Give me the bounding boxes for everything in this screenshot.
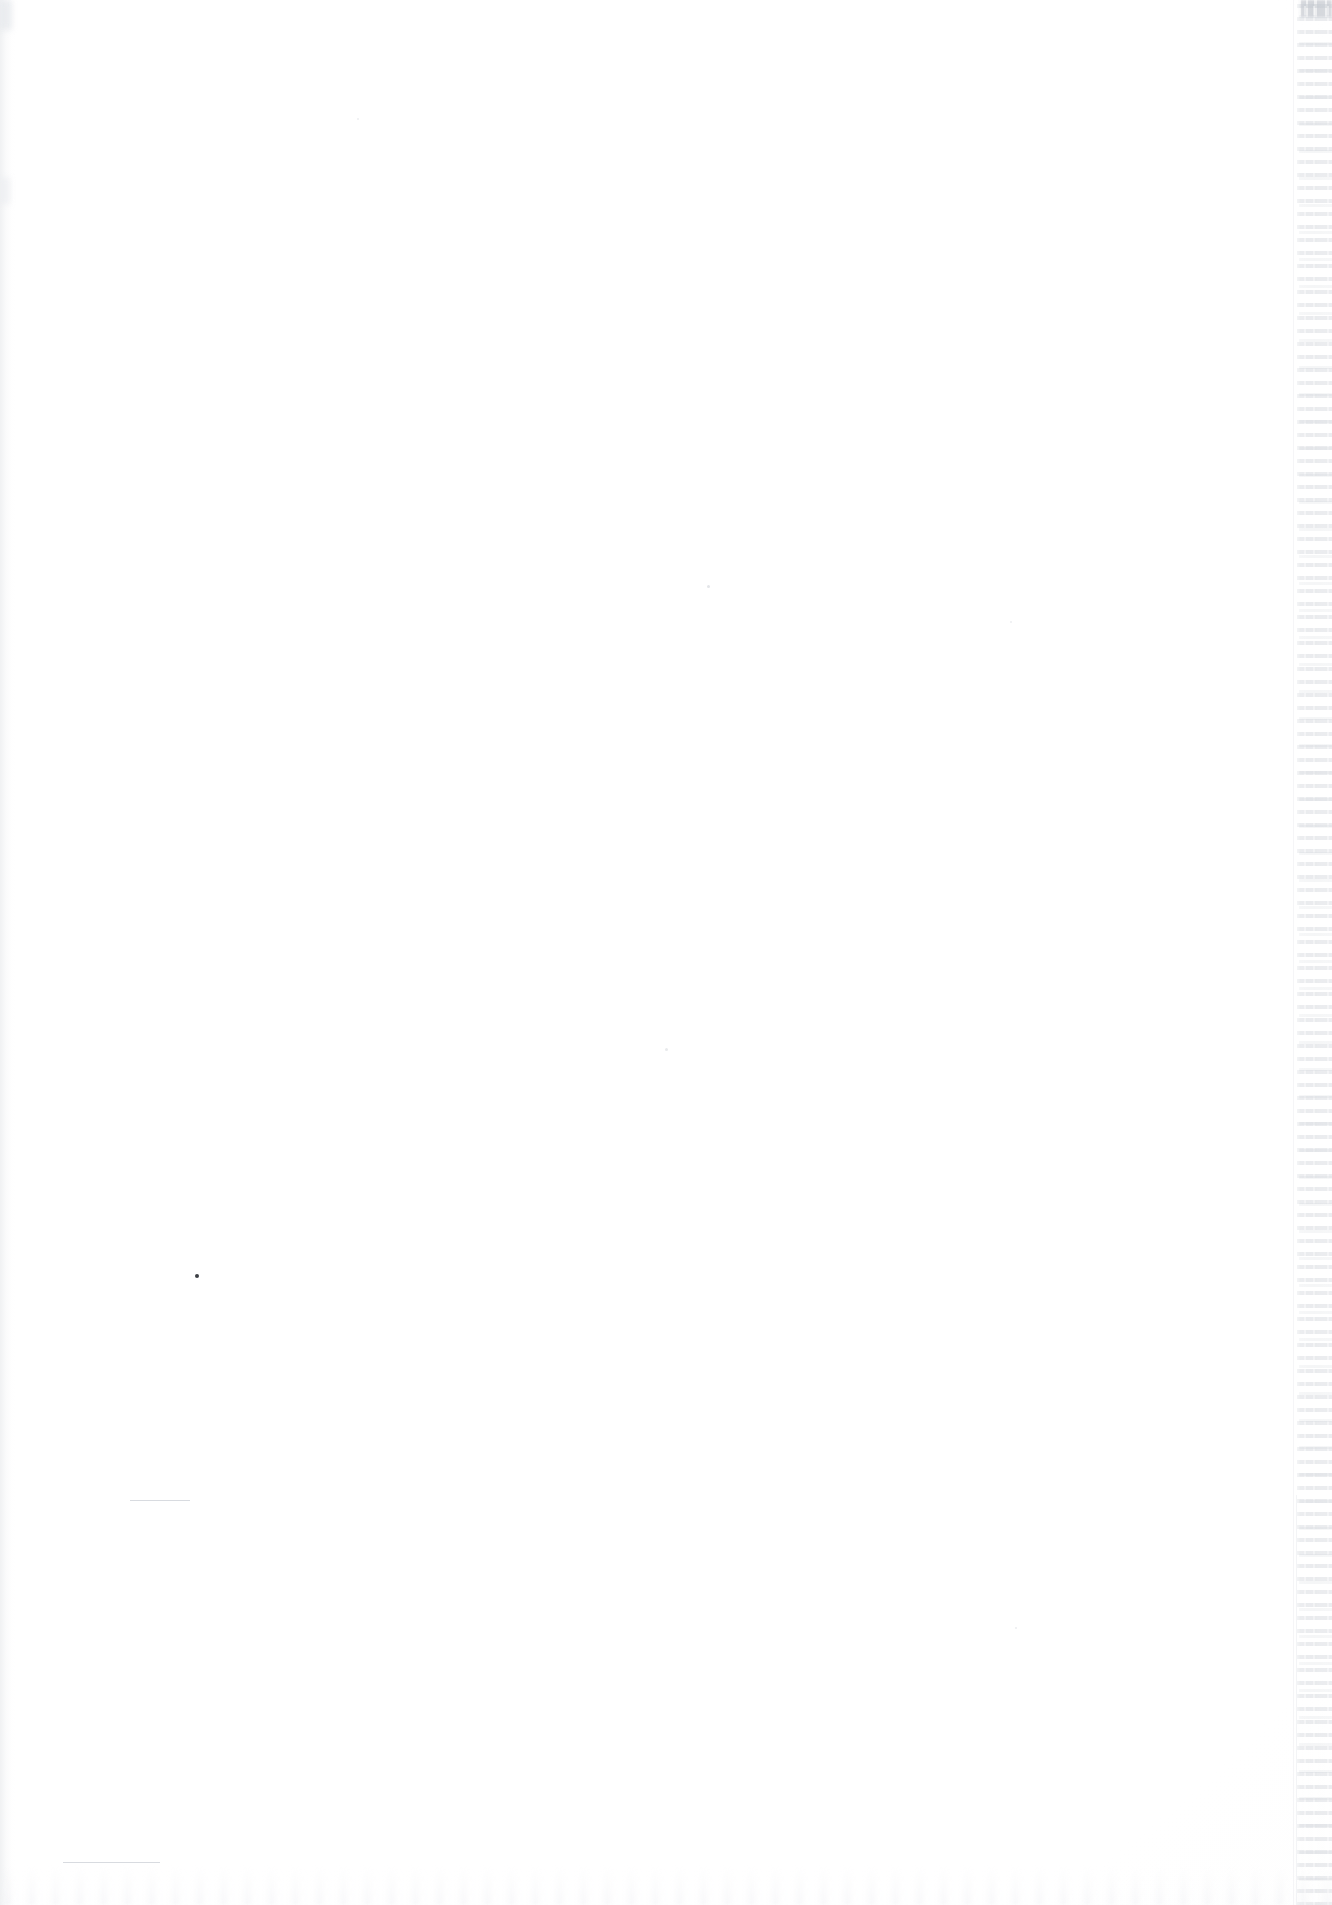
showthrough-ghost-text-rows [1297, 0, 1332, 1905]
showthrough-corner-block [1300, 0, 1332, 17]
page-content-area [62, 60, 1252, 1835]
showthrough-fade-mask [1290, 0, 1332, 1905]
showthrough-ghost-text-rows-secondary [1299, 6, 1332, 1905]
bottom-scan-noise [0, 1865, 1332, 1905]
scanned-page [0, 0, 1332, 1905]
left-scan-blotch-lower [0, 178, 10, 204]
showthrough-vertical-rule-secondary [1296, 1495, 1297, 1905]
left-scan-blotch-top [0, 0, 12, 30]
showthrough-strip [1290, 0, 1332, 1905]
faint-horizontal-rule-lower [63, 1862, 160, 1863]
left-scan-shadow [0, 0, 16, 1905]
showthrough-vertical-rule [1293, 0, 1294, 1905]
